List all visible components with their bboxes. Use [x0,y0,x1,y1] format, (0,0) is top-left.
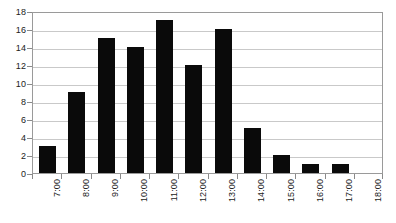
x-axis-tick-label: 14:00 [255,179,267,223]
bar [185,65,202,173]
x-axis-tick-label: 15:00 [285,179,297,223]
bar [127,47,144,173]
x-axis-tick-label: 12:00 [197,179,209,223]
y-axis-tick-label: 16 [0,26,26,35]
x-axis-tick-label: 18:00 [372,179,384,223]
x-axis-tick-label: 10:00 [138,179,150,223]
bar [39,146,56,173]
bar [302,164,319,173]
bar [98,38,115,173]
bar [244,128,261,173]
y-axis-tick-label: 12 [0,62,26,71]
x-axis-label-group: 7:008:009:0010:0011:0012:0013:0014:0015:… [32,179,383,223]
y-axis-tick-label: 10 [0,80,26,89]
bar-chart: 024681012141618 7:008:009:0010:0011:0012… [0,0,396,223]
bar-series [33,13,382,173]
x-axis-tick-label: 7:00 [51,179,63,223]
bar [332,164,349,173]
bar [68,92,85,173]
plot-area [32,12,383,174]
y-axis-tick-label: 14 [0,44,26,53]
x-axis-tick-label: 11:00 [168,179,180,223]
y-axis-tick-label: 4 [0,134,26,143]
y-axis-tick-label: 0 [0,170,26,179]
y-axis-tick-label: 8 [0,98,26,107]
y-axis-tick-label: 18 [0,8,26,17]
x-axis-tick-label: 8:00 [80,179,92,223]
bar [215,29,232,173]
bar [273,155,290,173]
y-axis-label-group: 024681012141618 [0,12,26,174]
x-axis-tick-label: 16:00 [314,179,326,223]
x-axis-tick-label: 13:00 [226,179,238,223]
x-axis-tick-label: 9:00 [109,179,121,223]
x-axis-tick-label: 17:00 [343,179,355,223]
y-axis-tick-label: 2 [0,152,26,161]
bar [156,20,173,173]
y-axis-tick-label: 6 [0,116,26,125]
